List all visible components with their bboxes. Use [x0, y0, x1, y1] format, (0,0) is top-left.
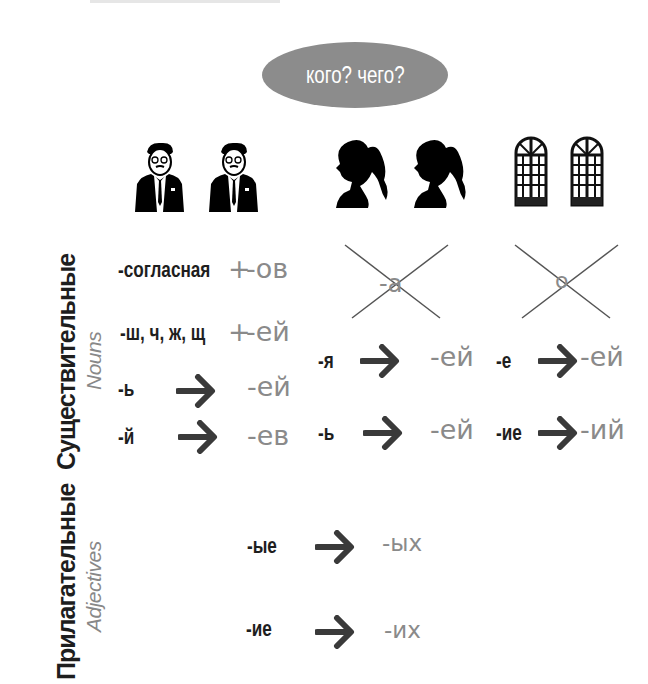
rule-from: -е	[496, 348, 511, 374]
arched-window-icon	[514, 135, 548, 207]
section-sublabel-nouns: Nouns	[82, 332, 106, 390]
rule-from: -ш, ч, ж, щ	[120, 320, 205, 346]
adjectives-sublabel: Adjectives	[82, 541, 106, 632]
nouns-sublabel: Nouns	[82, 332, 106, 390]
rule-to: -ей	[247, 371, 291, 402]
woman-silhouette-icon	[328, 138, 394, 208]
rule-to: -ей	[430, 341, 474, 372]
rule-from: -ь	[318, 420, 334, 446]
crossed-out-text: о	[555, 268, 568, 293]
arrow-right-icon	[178, 420, 218, 454]
rule-to: -ей	[580, 341, 624, 372]
section-label-adjectives: Прилагательные	[52, 484, 81, 680]
rule-to: -ев	[247, 420, 289, 451]
arrow-right-icon	[538, 344, 578, 378]
rule-from: -ь	[118, 376, 134, 402]
arrow-right-icon	[360, 344, 400, 378]
rule-to: -их	[384, 617, 421, 643]
rule-from: -ие	[496, 420, 522, 446]
arrow-right-icon	[315, 615, 355, 649]
rule-to: -ий	[580, 414, 625, 445]
arrow-right-icon	[538, 416, 578, 450]
arrow-right-icon	[363, 416, 403, 450]
rule-from: -я	[318, 348, 334, 374]
rule-from: -ые	[247, 533, 277, 559]
businessman-icon	[133, 140, 185, 212]
adjectives-label: Прилагательные	[52, 484, 81, 680]
rule-to: -ых	[382, 530, 422, 556]
rule-from: -й	[118, 424, 134, 450]
crossed-out-text: -а	[379, 270, 402, 298]
arrow-right-icon	[176, 374, 216, 408]
woman-silhouette-icon	[406, 138, 472, 208]
question-text: кого? чего?	[306, 61, 405, 89]
rule-from: -ие	[246, 616, 272, 642]
rule-to: -ей	[246, 316, 290, 347]
nouns-label: Существительные	[52, 254, 81, 470]
arrow-right-icon	[315, 530, 355, 564]
cropped-top-fragment	[90, 0, 280, 3]
rule-to: -ей	[430, 414, 474, 445]
section-sublabel-adjectives: Adjectives	[82, 541, 106, 632]
question-bubble: кого? чего?	[262, 42, 448, 108]
businessman-icon	[207, 140, 259, 212]
rule-to: -ов	[246, 253, 288, 284]
section-label-nouns: Существительные	[52, 254, 81, 470]
arched-window-icon	[570, 135, 604, 207]
rule-from: -согласная	[118, 257, 210, 283]
